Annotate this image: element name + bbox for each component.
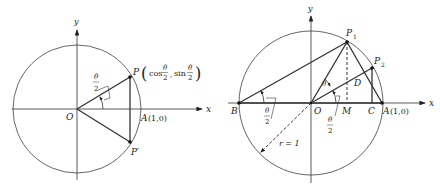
svg-text:2: 2 [94, 85, 98, 93]
diagram-canvas: x y O P ( cos θ 2 , sin θ 2 ) P′ A [0, 0, 440, 193]
left-origin-label: O [66, 112, 74, 122]
svg-text:θ: θ [94, 73, 99, 81]
svg-text:(1,0): (1,0) [148, 114, 167, 123]
point-a-label-right: A (1,0) [382, 106, 409, 116]
svg-text:P: P [373, 56, 381, 66]
point-p1 [345, 40, 349, 44]
svg-text:θ: θ [163, 64, 168, 72]
svg-text:2: 2 [381, 61, 385, 68]
radius-label: r = 1 [279, 139, 300, 148]
right-x-axis-label: x [429, 98, 434, 108]
svg-text:θ: θ [188, 64, 193, 72]
left-x-axis-label: x [206, 104, 211, 114]
point-c-label: C [368, 106, 375, 116]
point-p1-label: P 1 [345, 28, 357, 40]
left-figure: x y O P ( cos θ 2 , sin θ 2 ) P′ A [12, 17, 211, 180]
coord-sin-text: sin [174, 69, 186, 78]
right-origin-label: O [314, 106, 322, 116]
svg-text:A: A [140, 113, 148, 123]
right-figure: x y B O P 1 P 2 D M [228, 4, 434, 183]
svg-text:1: 1 [353, 33, 357, 40]
point-d-label: D [353, 78, 361, 88]
right-y-axis-label: y [307, 4, 313, 13]
left-angle-label: θ 2 [93, 73, 99, 93]
angle-arc-half-theta-b [261, 91, 264, 103]
svg-text:2: 2 [265, 118, 269, 126]
svg-text:θ: θ [265, 107, 270, 115]
point-p [128, 75, 132, 79]
point-b-label: B [230, 106, 238, 116]
point-p-prime [128, 140, 132, 144]
point-a [380, 101, 384, 105]
svg-text:2: 2 [188, 74, 192, 82]
angle-half-theta-b-label: θ 2 [264, 107, 270, 126]
segment-o-p1 [311, 42, 347, 103]
left-angle-arc [100, 97, 103, 109]
point-o [310, 102, 312, 104]
point-m-label: M [341, 106, 352, 116]
svg-text:(1,0): (1,0) [390, 107, 409, 116]
point-p-coordinates: ( cos θ 2 , sin θ 2 ) [141, 64, 201, 83]
point-b [237, 101, 241, 105]
segment-b-p1 [239, 42, 347, 103]
coord-cos-text: cos [149, 69, 162, 78]
svg-text:θ: θ [328, 116, 333, 124]
point-p2 [370, 66, 374, 70]
point-p-prime-label: P′ [130, 147, 139, 157]
svg-text:(: ( [141, 64, 147, 83]
point-p2-label: P 2 [373, 56, 385, 68]
left-y-axis-label: y [73, 17, 79, 26]
segment-op-prime [77, 109, 130, 142]
point-a-label: A (1,0) [140, 113, 167, 123]
svg-text:2: 2 [163, 74, 167, 82]
angle-theta-label: θ [322, 80, 327, 88]
svg-text:2: 2 [328, 127, 332, 135]
angle-arc-half-theta-o [333, 91, 336, 103]
angle-half-theta-o-label: θ 2 [327, 116, 333, 135]
svg-text:A: A [382, 106, 390, 116]
svg-text:): ) [195, 64, 201, 83]
point-p-label: P [132, 67, 140, 77]
segment-op [77, 77, 130, 109]
svg-text:P: P [345, 28, 353, 38]
segment-o-p2 [311, 68, 372, 103]
svg-text:,: , [170, 71, 172, 79]
